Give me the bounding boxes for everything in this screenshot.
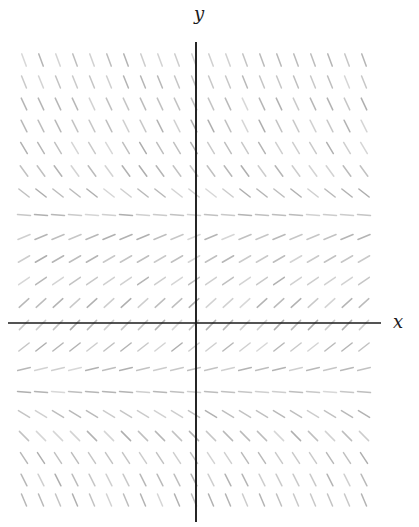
slope-segments [18,54,371,506]
y-axis-label: y [194,5,204,23]
slope-field-canvas [0,0,419,527]
x-axis-label: x [393,313,403,331]
slope-field-figure: y x [0,0,419,527]
